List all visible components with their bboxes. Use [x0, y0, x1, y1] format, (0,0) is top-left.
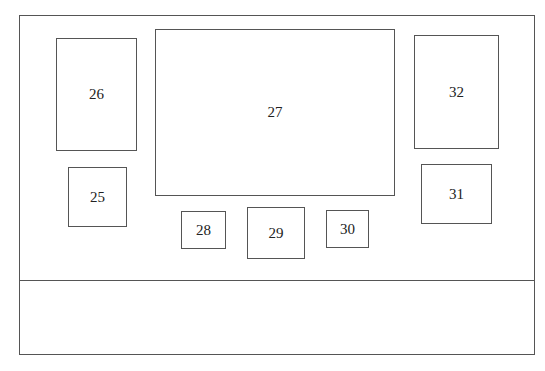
box-27: 27	[155, 29, 395, 196]
box-28: 28	[181, 211, 226, 249]
box-29: 29	[247, 207, 305, 259]
box-31: 31	[421, 164, 492, 224]
box-32: 32	[414, 35, 499, 149]
box-30: 30	[326, 210, 369, 248]
box-25: 25	[68, 167, 127, 227]
box-26: 26	[56, 38, 137, 151]
bottom-divider	[19, 280, 535, 281]
